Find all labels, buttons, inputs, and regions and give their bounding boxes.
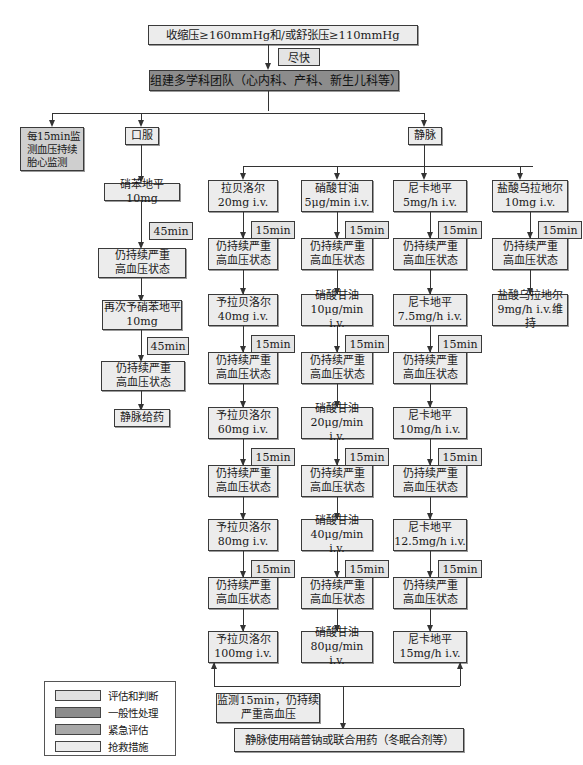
- nitroglycerin-dose-box: 硝酸甘油80μg/min i.v.: [301, 631, 373, 663]
- persist-box: 仍持续严重高血压状态: [208, 465, 278, 497]
- persist-box: 仍持续严重高血压状态: [301, 238, 373, 270]
- nitroprusside-box: 静脉使用硝普钠或联合用药（冬眠合剂等）: [234, 728, 464, 752]
- legend-item: 一般性处理: [55, 705, 158, 720]
- wait-label: 15min: [438, 448, 482, 466]
- wait-label: 15min: [345, 335, 389, 353]
- labetalol-dose-box: 予拉贝洛尔100mg i.v.: [208, 631, 278, 663]
- team-text: 组建多学科团队（心内科、产科、新生儿科等）: [150, 74, 398, 88]
- persist-box: 仍持续严重高血压状态: [492, 238, 568, 270]
- wait-label: 15min: [438, 335, 482, 353]
- oral-box: 口服: [125, 127, 159, 145]
- legend-swatch: [55, 707, 101, 718]
- arrow-icon: [49, 120, 55, 127]
- persist-box: 仍持续严重高血压状态: [301, 465, 373, 497]
- wait-label: 45min: [149, 222, 193, 240]
- team-box: 组建多学科团队（心内科、产科、新生儿科等）: [149, 70, 399, 91]
- legend-swatch: [55, 741, 101, 752]
- persist-box: 仍持续严重高血压状态: [301, 352, 373, 384]
- persist-box: 仍持续严重高血压状态: [98, 248, 186, 278]
- connector: [141, 201, 142, 245]
- legend-swatch: [55, 690, 101, 701]
- legend-item: 抢救措施: [55, 739, 148, 754]
- arrow-icon: [240, 173, 246, 180]
- legend: 评估和判断 一般性处理 紧急评估 抢救措施: [44, 681, 176, 756]
- nicardipine-dose-box: 尼卡地平12.5mg/h i.v.: [393, 519, 467, 551]
- nitroglycerin-dose-box: 硝酸甘油10μg/min i.v.: [301, 294, 373, 326]
- persist-box: 仍持续严重高血压状态: [393, 238, 467, 270]
- connector: [141, 330, 142, 358]
- wait-label: 15min: [345, 560, 389, 578]
- arrow-icon: [265, 63, 271, 70]
- wait-label: 45min: [147, 337, 189, 355]
- monitor-box: 每15min监 测血压持续 胎心监测: [20, 127, 84, 171]
- wait-label: 15min: [251, 448, 295, 466]
- nicardipine-dose-box: 尼卡地平15mg/h i.v.: [393, 631, 467, 663]
- legend-item: 紧急评估: [55, 722, 148, 737]
- nitroglycerin-dose-box: 硝酸甘油5μg/min i.v.: [301, 180, 373, 212]
- criteria-text: 收缩压≥160mmHg和/或舒张压≥110mmHg: [166, 28, 399, 42]
- legend-item: 评估和判断: [55, 688, 158, 703]
- monitor-note-box: 监测15min，仍持续严重高血压: [216, 693, 320, 723]
- arrow-icon: [421, 120, 427, 127]
- wait-label: 15min: [438, 560, 482, 578]
- connector: [268, 113, 424, 114]
- persist-box: 仍持续严重高血压状态: [101, 361, 185, 391]
- connector: [343, 686, 344, 726]
- iv-referral-box: 静脉给药: [114, 409, 170, 427]
- labetalol-dose-box: 予拉贝洛尔60mg i.v.: [208, 407, 278, 439]
- criteria-box: 收缩压≥160mmHg和/或舒张压≥110mmHg: [148, 25, 418, 45]
- wait-label: 15min: [345, 221, 389, 239]
- persist-box: 仍持续严重高血压状态: [208, 238, 278, 270]
- persist-box: 仍持续严重高血压状态: [208, 352, 278, 384]
- persist-box: 仍持续严重高血压状态: [393, 577, 467, 609]
- arrow-icon: [457, 662, 463, 669]
- labetalol-dose-box: 予拉贝洛尔40mg i.v.: [208, 294, 278, 326]
- labetalol-dose-box: 予拉贝洛尔80mg i.v.: [208, 519, 278, 551]
- wait-label: 15min: [345, 448, 389, 466]
- connector: [268, 91, 269, 111]
- nitroglycerin-dose-box: 硝酸甘油40μg/min i.v.: [301, 519, 373, 551]
- nicardipine-dose-box: 尼卡地平7.5mg/h i.v.: [393, 294, 467, 326]
- arrow-icon: [138, 120, 144, 127]
- wait-label: 15min: [251, 335, 295, 353]
- persist-box: 仍持续严重高血压状态: [393, 352, 467, 384]
- wait-label: 15min: [251, 221, 295, 239]
- connector: [141, 145, 142, 179]
- asap-label: 尽快: [278, 48, 320, 66]
- connector: [424, 145, 425, 164]
- nicardipine-dose-box: 尼卡地平10mg/h i.v.: [393, 407, 467, 439]
- persist-box: 仍持续严重高血压状态: [301, 577, 373, 609]
- wait-label: 15min: [438, 221, 482, 239]
- urapidil-dose-box: 盐酸乌拉地尔9mg/h i.v.维持: [492, 294, 568, 326]
- wait-label: 15min: [538, 221, 582, 239]
- connector: [268, 45, 269, 65]
- labetalol-dose-box: 拉贝洛尔20mg i.v.: [208, 180, 278, 212]
- connector: [243, 166, 533, 167]
- urapidil-dose-box: 盐酸乌拉地尔10mg i.v.: [492, 180, 568, 212]
- arrow-icon: [421, 173, 427, 180]
- nitroglycerin-dose-box: 硝酸甘油20μg/min i.v.: [301, 407, 373, 439]
- legend-swatch: [55, 724, 101, 735]
- connector: [214, 686, 460, 687]
- persist-box: 仍持续严重高血压状态: [393, 465, 467, 497]
- arrow-icon: [517, 173, 523, 180]
- nicardipine-dose-box: 尼卡地平5mg/h i.v.: [393, 180, 467, 212]
- wait-label: 15min: [251, 560, 295, 578]
- iv-box: 静脉: [408, 127, 442, 145]
- arrow-icon: [211, 662, 217, 669]
- nifedipine-box-2: 再次予硝苯地平10mg: [102, 300, 182, 330]
- persist-box: 仍持续严重高血压状态: [208, 577, 278, 609]
- nifedipine-box-1: 硝苯地平10mg: [104, 183, 180, 201]
- arrow-icon: [334, 173, 340, 180]
